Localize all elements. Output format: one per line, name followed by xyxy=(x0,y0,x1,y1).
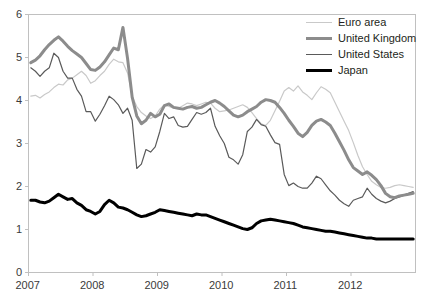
legend-label-japan: Japan xyxy=(338,64,368,76)
legend-item-euro-area[interactable]: Euro area xyxy=(306,14,430,30)
y-tick-label: 3 xyxy=(4,138,22,149)
y-tick-label: 0 xyxy=(4,267,22,278)
y-tick-label: 1 xyxy=(4,224,22,235)
x-tick-label: 2009 xyxy=(145,280,169,291)
legend-swatch-united-kingdom xyxy=(306,37,332,40)
y-tick-label: 2 xyxy=(4,181,22,192)
x-tick-label: 2007 xyxy=(16,280,40,291)
x-tick-label: 2011 xyxy=(274,280,298,291)
x-tick-label: 2012 xyxy=(338,280,362,291)
legend-label-united-kingdom: United Kingdom xyxy=(338,32,416,44)
legend-swatch-japan xyxy=(306,69,332,72)
x-tick-label: 2010 xyxy=(209,280,233,291)
legend-item-japan[interactable]: Japan xyxy=(306,62,430,78)
legend-swatch-united-states xyxy=(306,54,332,55)
legend-swatch-euro-area xyxy=(306,22,332,23)
legend-label-euro-area: Euro area xyxy=(338,16,386,28)
line-chart: 0123456 200720082009201020112012 Euro ar… xyxy=(0,0,432,297)
y-tick-label: 4 xyxy=(4,95,22,106)
legend-item-united-kingdom[interactable]: United Kingdom xyxy=(306,30,430,46)
legend-label-united-states: United States xyxy=(338,48,404,60)
legend-item-united-states[interactable]: United States xyxy=(306,46,430,62)
chart-legend: Euro area United Kingdom United States J… xyxy=(306,14,430,78)
y-tick-label: 5 xyxy=(4,52,22,63)
y-tick-label: 6 xyxy=(4,9,22,20)
x-tick-label: 2008 xyxy=(80,280,104,291)
